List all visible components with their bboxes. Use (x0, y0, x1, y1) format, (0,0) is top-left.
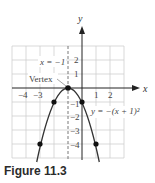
svg-text:−1: −1 (70, 99, 80, 109)
y-axis-arrow-icon (79, 26, 85, 34)
svg-text:1: 1 (74, 69, 79, 79)
tick-labels: −4 −3 1 2 2 1 −1 −2 −3 −4 (18, 55, 113, 150)
svg-text:2: 2 (74, 55, 79, 65)
x-axis-arrow-icon (132, 85, 140, 91)
x-axis-label: x (142, 83, 148, 94)
svg-text:−3: −3 (70, 126, 80, 136)
svg-text:−4: −4 (18, 90, 28, 100)
axis-of-symmetry-label: x = −1 (39, 57, 65, 67)
parabola-curve (37, 88, 100, 162)
svg-text:−2: −2 (70, 112, 80, 122)
vertex-pointer (57, 79, 66, 86)
y-axis-label: y (77, 13, 83, 24)
svg-text:2: 2 (108, 90, 113, 100)
svg-text:−3: −3 (33, 90, 43, 100)
svg-text:1: 1 (94, 90, 99, 100)
vertex-label: Vertex (29, 74, 53, 84)
figure-caption: Figure 11.3 (4, 164, 67, 178)
svg-text:−4: −4 (70, 140, 80, 150)
parabola-graph: x y −4 −3 1 2 2 1 −1 −2 −3 −4 x = −1 Ver… (0, 0, 155, 183)
equation-label: y = −(x + 1)² (90, 106, 140, 116)
